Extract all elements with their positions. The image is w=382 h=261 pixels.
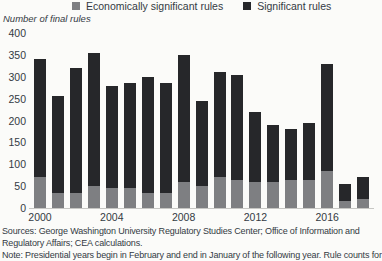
x-axis-tick-label: 2016: [312, 211, 342, 223]
x-axis-tick-label: 2008: [169, 211, 199, 223]
y-axis-tick-label: 300: [0, 71, 26, 83]
footer: Sources: George Washington University Re…: [2, 225, 374, 261]
bar-segment-significant: [142, 77, 154, 193]
bar-segment-economically-significant: [339, 201, 351, 208]
bar-segment-economically-significant: [70, 193, 82, 208]
bar-segment-economically-significant: [231, 180, 243, 208]
bar-segment-significant: [88, 53, 100, 186]
bar-segment-economically-significant: [303, 180, 315, 208]
bar: [160, 83, 172, 208]
bar: [303, 123, 315, 208]
bar-segment-significant: [357, 177, 369, 199]
bar: [196, 101, 208, 208]
bar-segment-significant: [214, 72, 226, 177]
bar-segment-significant: [249, 112, 261, 182]
bar-segment-significant: [339, 184, 351, 202]
bar-segment-significant: [70, 68, 82, 193]
x-axis-tick-label: 2012: [240, 211, 270, 223]
y-axis-tick-label: 150: [0, 136, 26, 148]
y-axis-tick-label: 50: [0, 180, 26, 192]
bar-segment-economically-significant: [357, 199, 369, 208]
bar-segment-economically-significant: [88, 186, 100, 208]
bar: [357, 177, 369, 208]
bar-segment-economically-significant: [178, 182, 190, 208]
bar-segment-significant: [321, 64, 333, 171]
bar: [249, 112, 261, 208]
bar-segment-significant: [285, 129, 297, 179]
bar-segment-economically-significant: [267, 182, 279, 208]
bar-segment-significant: [303, 123, 315, 180]
bar-segment-economically-significant: [106, 188, 118, 208]
note-text: Note: Presidential years begin in Februa…: [2, 249, 374, 261]
bar: [339, 184, 351, 208]
bar: [124, 83, 136, 208]
bar-segment-significant: [34, 59, 46, 177]
y-axis-tick-label: 400: [0, 27, 26, 39]
bar-segment-economically-significant: [52, 193, 64, 208]
bar-segment-significant: [160, 83, 172, 192]
bar: [178, 55, 190, 208]
bar-segment-economically-significant: [249, 182, 261, 208]
bar-segment-economically-significant: [196, 186, 208, 208]
y-axis-tick-label: 350: [0, 49, 26, 61]
y-axis-tick-label: 0: [0, 202, 26, 214]
bar: [285, 129, 297, 208]
bar-segment-economically-significant: [285, 180, 297, 208]
bar: [231, 75, 243, 208]
x-axis-line: [29, 208, 374, 209]
bar-segment-economically-significant: [124, 188, 136, 208]
bar-segment-significant: [52, 96, 64, 192]
x-axis-tick-label: 2000: [25, 211, 55, 223]
y-axis-tick-label: 250: [0, 93, 26, 105]
y-axis-tick-label: 200: [0, 115, 26, 127]
bar-segment-significant: [231, 75, 243, 180]
bar-segment-economically-significant: [321, 171, 333, 208]
bar: [70, 68, 82, 208]
x-axis-tick-label: 2004: [97, 211, 127, 223]
bar-segment-significant: [178, 55, 190, 182]
bar: [321, 64, 333, 208]
sources-text-line1: Sources: George Washington University Re…: [2, 225, 374, 237]
bar-segment-significant: [106, 86, 118, 189]
sources-text-line2: Regulatory Affairs; CEA calculations.: [2, 237, 374, 249]
y-axis-tick-label: 100: [0, 158, 26, 170]
bar: [34, 59, 46, 208]
bar-segment-significant: [196, 101, 208, 186]
bar: [142, 77, 154, 208]
bar-segment-significant: [267, 125, 279, 182]
bar: [214, 72, 226, 208]
bar-segment-economically-significant: [214, 177, 226, 208]
bar: [52, 96, 64, 208]
bar-segment-economically-significant: [142, 193, 154, 208]
bar: [88, 53, 100, 208]
bar-segment-economically-significant: [160, 193, 172, 208]
bar: [267, 125, 279, 208]
bar-segment-significant: [124, 83, 136, 188]
bar: [106, 86, 118, 209]
bar-segment-economically-significant: [34, 177, 46, 208]
